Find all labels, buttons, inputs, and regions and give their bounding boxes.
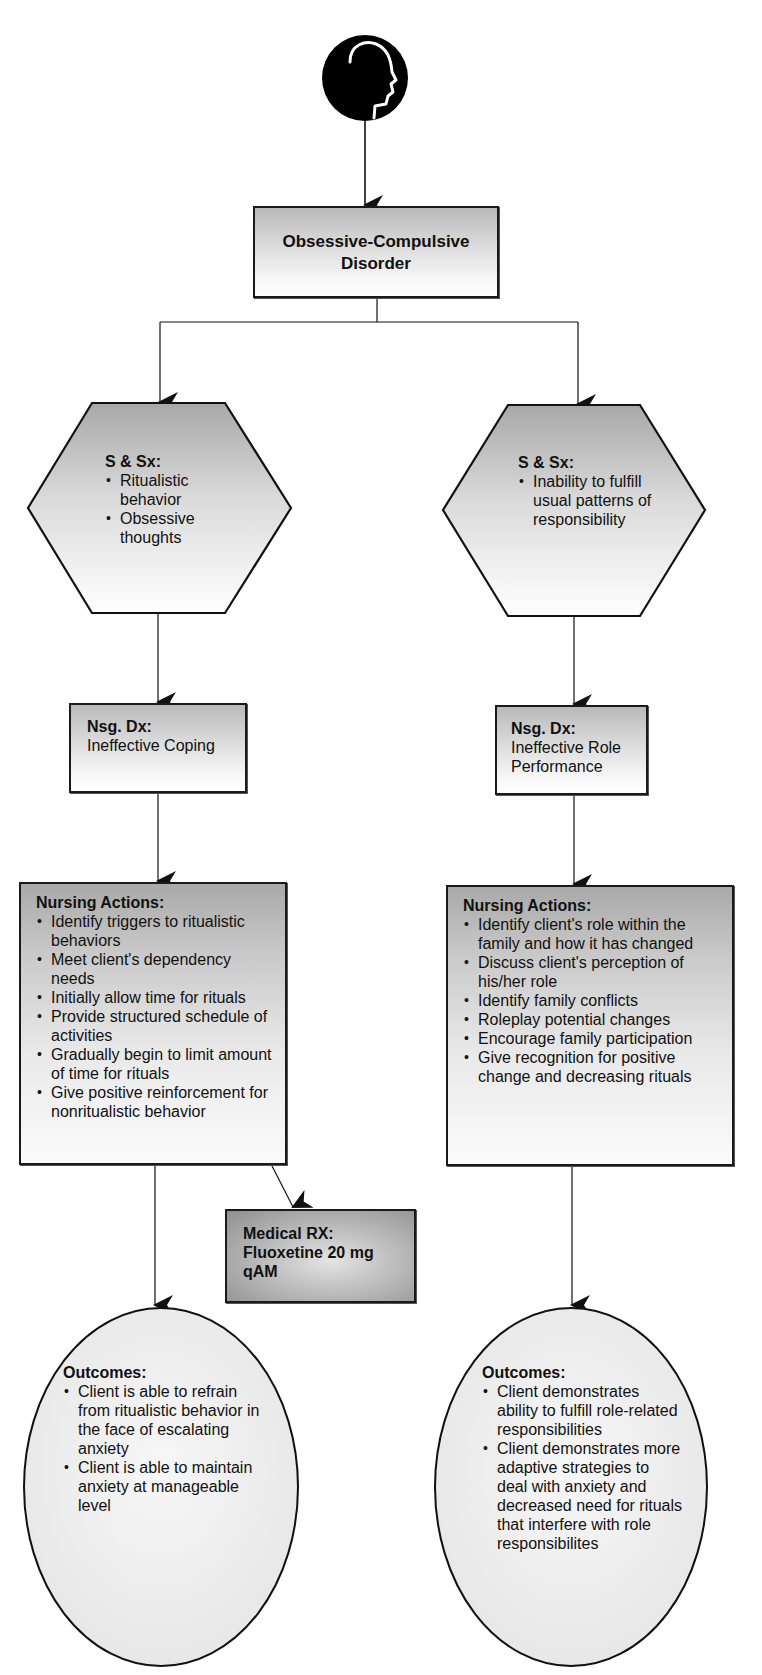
right-nursing-action-item: Identify family conflicts (463, 991, 726, 1010)
right-outcomes-heading: Outcomes: (482, 1363, 682, 1382)
left-outcomes-heading: Outcomes: (63, 1363, 263, 1382)
left-outcome-item: Client is able to maintain anxiety at ma… (63, 1458, 263, 1515)
right-nursing-action-item: Give recognition for positive change and… (463, 1048, 726, 1086)
right-nursing-dx-heading: Nsg. Dx: (511, 719, 640, 738)
right-nursing-dx-text: Ineffective Role Performance (511, 738, 640, 776)
left-nursing-actions-box: Nursing Actions: Identify triggers to ri… (19, 882, 287, 1165)
left-outcomes-content: Outcomes: Client is able to refrain from… (63, 1363, 263, 1515)
left-nursing-action-item: Gradually begin to limit amount of time … (36, 1045, 279, 1083)
left-nursing-action-item: Identify triggers to ritualistic behavio… (36, 912, 279, 950)
left-signs-content: S & Sx: Ritualistic behavior Obsessive t… (105, 452, 230, 547)
right-nursing-actions-box: Nursing Actions: Identify client's role … (446, 885, 734, 1166)
right-outcome-item: Client demonstrates ability to fulfill r… (482, 1382, 682, 1439)
left-signs-heading: S & Sx: (105, 452, 230, 471)
medical-rx-drug: Fluoxetine 20 mg (243, 1243, 408, 1262)
left-nursing-dx-box: Nsg. Dx: Ineffective Coping (69, 703, 247, 793)
left-nursing-actions-heading: Nursing Actions: (36, 893, 279, 912)
right-nursing-action-item: Discuss client's perception of his/her r… (463, 953, 726, 991)
right-outcomes-content: Outcomes: Client demonstrates ability to… (482, 1363, 682, 1553)
right-nursing-dx-box: Nsg. Dx: Ineffective Role Performance (495, 705, 648, 795)
medical-rx-heading: Medical RX: (243, 1224, 408, 1243)
root-title-line2: Disorder (255, 253, 497, 275)
left-nursing-dx-heading: Nsg. Dx: (87, 717, 245, 736)
left-nursing-action-item: Meet client's dependency needs (36, 950, 279, 988)
right-nursing-action-item: Encourage family participation (463, 1029, 726, 1048)
left-signs-item: Obsessive thoughts (105, 509, 230, 547)
head-profile-icon (322, 35, 408, 121)
right-signs-heading: S & Sx: (518, 453, 653, 472)
left-signs-item: Ritualistic behavior (105, 471, 230, 509)
right-signs-item: Inability to fulfill usual patterns of r… (518, 472, 653, 529)
root-disorder-box: Obsessive-Compulsive Disorder (253, 206, 499, 298)
medical-rx-box: Medical RX: Fluoxetine 20 mg qAM (225, 1209, 416, 1303)
right-outcome-item: Client demonstrates more adaptive strate… (482, 1439, 682, 1553)
right-signs-content: S & Sx: Inability to fulfill usual patte… (518, 453, 653, 529)
right-nursing-action-item: Roleplay potential changes (463, 1010, 726, 1029)
left-nursing-action-item: Provide structured schedule of activitie… (36, 1007, 279, 1045)
left-nursing-dx-text: Ineffective Coping (87, 736, 245, 755)
right-nursing-action-item: Identify client's role within the family… (463, 915, 726, 953)
left-outcome-item: Client is able to refrain from ritualist… (63, 1382, 263, 1458)
root-title-line1: Obsessive-Compulsive (255, 231, 497, 253)
left-nursing-action-item: Initially allow time for rituals (36, 988, 279, 1007)
left-nursing-action-item: Give positive reinforcement for nonritua… (36, 1083, 279, 1121)
medical-rx-frequency: qAM (243, 1262, 408, 1281)
right-nursing-actions-heading: Nursing Actions: (463, 896, 726, 915)
